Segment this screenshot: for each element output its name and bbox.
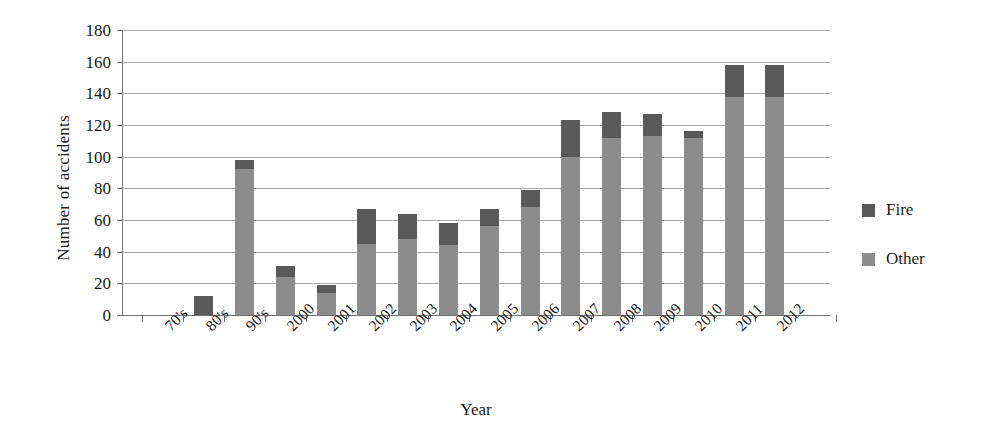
bar-segment-fire (235, 160, 254, 170)
bar-90s (235, 160, 254, 315)
bar-segment-other (602, 138, 621, 315)
bar-segment-fire (521, 190, 540, 207)
bar-segment-other (643, 136, 662, 315)
bar-segment-other (480, 226, 499, 315)
legend-label: Other (886, 249, 925, 269)
bar-segment-fire (276, 266, 295, 277)
bar-segment-fire (561, 120, 580, 156)
bar-2003 (398, 214, 417, 315)
bar-segment-other (439, 245, 458, 315)
y-axis-tick-label: 160 (55, 53, 122, 70)
bar-segment-fire (602, 112, 621, 137)
x-axis-tick-mark (142, 315, 143, 322)
chart-legend: FireOther (862, 200, 925, 298)
bar-segment-fire (765, 65, 784, 97)
y-axis-tick-label: 0 (55, 307, 122, 324)
bar-segment-other (398, 239, 417, 315)
bar-segment-fire (725, 65, 744, 97)
x-axis-title: Year (122, 400, 830, 420)
bar-2002 (357, 209, 376, 315)
bar-segment-other (235, 169, 254, 315)
bar-segment-fire (439, 223, 458, 245)
legend-swatch-icon (862, 253, 875, 266)
bar-2008 (602, 112, 621, 315)
bar-segment-other (725, 97, 744, 316)
plot-area: 180160140120100806040200 70's80's90's200… (122, 30, 830, 315)
legend-label: Fire (886, 200, 913, 220)
y-axis-tick-label: 100 (55, 148, 122, 165)
bar-2010 (684, 131, 703, 315)
bar-2005 (480, 209, 499, 315)
bar-2012 (765, 65, 784, 315)
bar-segment-other (561, 157, 580, 315)
bar-segment-fire (317, 285, 336, 293)
bar-segment-other (684, 138, 703, 315)
bar-series (122, 30, 830, 315)
bar-segment-other (276, 277, 295, 315)
y-axis-tick-label: 120 (55, 117, 122, 134)
bar-2007 (561, 120, 580, 315)
y-axis-tick-label: 180 (55, 22, 122, 39)
bar-2000 (276, 266, 295, 315)
y-axis-tick-label: 20 (55, 275, 122, 292)
x-axis-tick-mark (836, 315, 837, 322)
legend-swatch-icon (862, 204, 875, 217)
y-axis-tick-label: 80 (55, 180, 122, 197)
bar-2006 (521, 190, 540, 315)
bar-2009 (643, 114, 662, 315)
bar-segment-other (765, 97, 784, 316)
bar-segment-fire (480, 209, 499, 226)
bar-2001 (317, 285, 336, 315)
bar-segment-other (357, 244, 376, 315)
bar-2004 (439, 223, 458, 315)
bar-chart: Number of accidents 18016014012010080604… (0, 0, 991, 446)
y-axis-tick-label: 40 (55, 243, 122, 260)
bar-segment-fire (357, 209, 376, 244)
y-axis-tick-label: 140 (55, 85, 122, 102)
y-axis-tick-label: 60 (55, 212, 122, 229)
bar-segment-fire (643, 114, 662, 136)
legend-item-fire[interactable]: Fire (862, 200, 925, 220)
y-axis-tick-mark (117, 315, 123, 316)
bar-segment-fire (398, 214, 417, 239)
bar-segment-other (521, 207, 540, 315)
bar-2011 (725, 65, 744, 315)
legend-item-other[interactable]: Other (862, 249, 925, 269)
